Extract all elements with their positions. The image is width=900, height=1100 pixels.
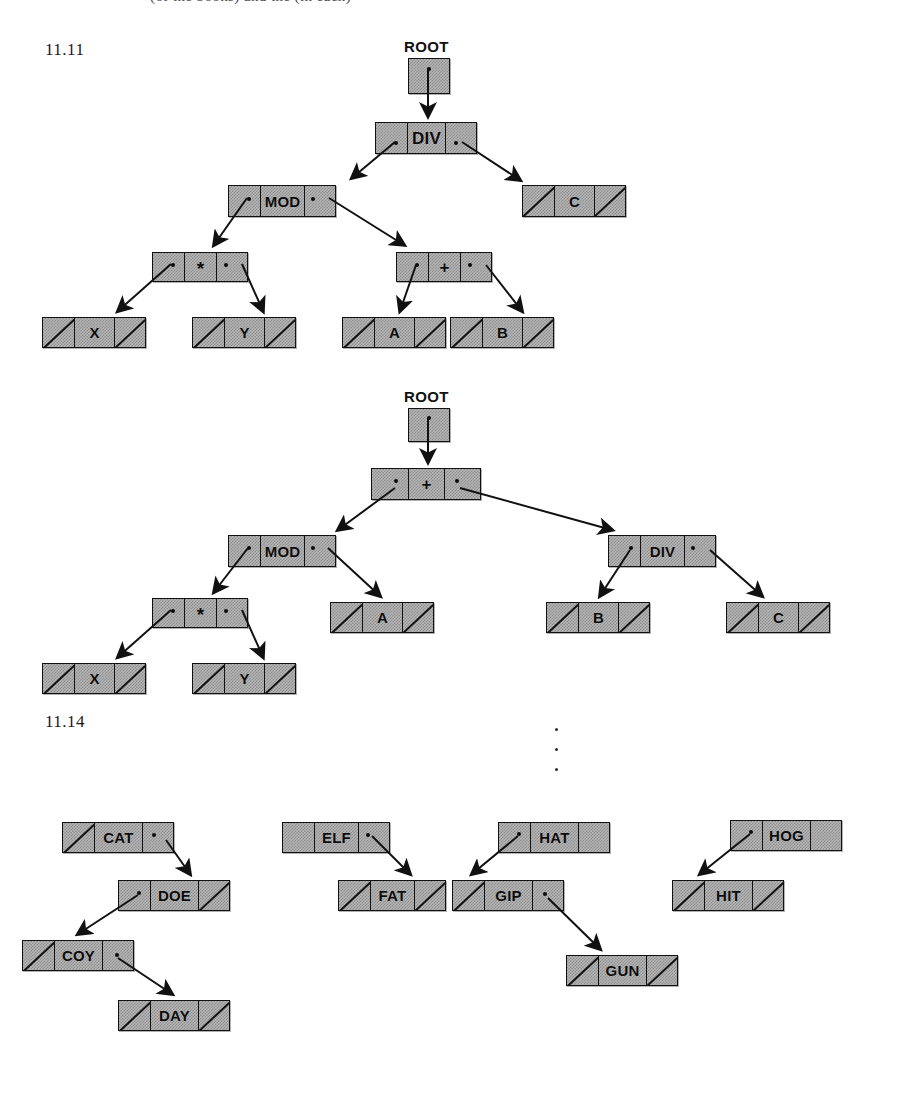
node-value: DAY — [150, 1001, 198, 1030]
vertical-ellipsis — [555, 728, 558, 788]
node-left-null — [547, 603, 578, 632]
node-c-tree2[interactable]: C — [726, 602, 830, 633]
node-value: GUN — [598, 956, 646, 985]
node-left-null — [23, 941, 54, 970]
node-doe[interactable]: DOE — [118, 880, 230, 911]
root-label-tree1: ROOT — [404, 38, 449, 55]
node-value: CAT — [94, 823, 142, 852]
node-left-pointer — [229, 186, 260, 216]
node-value: B — [578, 603, 618, 632]
node-value: X — [74, 664, 114, 693]
node-right-null — [522, 318, 553, 347]
node-right-null — [752, 881, 783, 910]
root-anchor-tree2 — [408, 408, 450, 442]
node-left-pointer — [731, 821, 762, 850]
node-left-pointer — [153, 599, 184, 627]
node-right-null — [798, 603, 829, 632]
node-left-pointer — [397, 253, 428, 281]
node-right-pointer — [102, 941, 133, 970]
node-c-tree1[interactable]: C — [522, 185, 626, 217]
node-left-null — [451, 318, 482, 347]
arrow-plus-div-t2 — [460, 488, 612, 530]
node-div-tree1[interactable]: DIV — [375, 122, 477, 154]
figure-page: (of the books) and the (in each) 11.11 1… — [0, 0, 900, 1100]
root-anchor-tree1 — [408, 58, 450, 94]
node-value: Y — [224, 664, 264, 693]
node-y-tree2[interactable]: Y — [192, 663, 296, 694]
node-value: HOG — [762, 821, 810, 850]
node-fat[interactable]: FAT — [338, 880, 446, 911]
node-hat[interactable]: HAT — [498, 822, 610, 853]
node-left-null — [119, 1001, 150, 1030]
node-right-pointer — [684, 536, 715, 566]
node-right-empty — [810, 821, 841, 850]
node-value: DIV — [640, 536, 684, 566]
root-label-tree2: ROOT — [404, 388, 449, 405]
node-hit[interactable]: HIT — [672, 880, 784, 911]
node-elf[interactable]: ELF — [282, 822, 390, 853]
node-right-pointer — [216, 253, 247, 281]
node-right-null — [414, 881, 445, 910]
node-left-pointer — [119, 881, 150, 910]
node-gip[interactable]: GIP — [452, 880, 564, 911]
node-left-null — [343, 318, 374, 347]
node-left-null — [331, 603, 362, 632]
node-right-null — [646, 956, 677, 985]
node-mod-tree1[interactable]: MOD — [228, 185, 336, 217]
node-value: B — [482, 318, 522, 347]
node-value: A — [362, 603, 402, 632]
arrow-div-c-t2 — [710, 550, 762, 596]
node-hog[interactable]: HOG — [730, 820, 842, 851]
node-gun[interactable]: GUN — [566, 955, 678, 986]
node-mod-tree2[interactable]: MOD — [228, 535, 336, 567]
node-plus-tree1[interactable]: + — [396, 252, 492, 282]
node-value: C — [554, 186, 594, 216]
node-left-pointer — [229, 536, 260, 566]
node-plus-tree2[interactable]: + — [371, 468, 481, 500]
node-x-tree1[interactable]: X — [42, 317, 146, 348]
node-right-pointer — [304, 186, 335, 216]
node-right-pointer — [304, 536, 335, 566]
node-x-tree2[interactable]: X — [42, 663, 146, 694]
node-day[interactable]: DAY — [118, 1000, 230, 1031]
node-b-tree2[interactable]: B — [546, 602, 650, 633]
node-value: Y — [224, 318, 264, 347]
arrow-mod-plus — [329, 198, 404, 245]
node-left-null — [727, 603, 758, 632]
node-value: + — [428, 253, 460, 281]
node-y-tree1[interactable]: Y — [192, 317, 296, 348]
node-right-null — [414, 318, 445, 347]
node-left-null — [339, 881, 370, 910]
node-right-null — [618, 603, 649, 632]
node-right-null — [198, 1001, 229, 1030]
exercise-label-11-14: 11.14 — [45, 712, 85, 732]
node-left-null — [673, 881, 704, 910]
node-value: FAT — [370, 881, 414, 910]
node-b-tree1[interactable]: B — [450, 317, 554, 348]
node-coy[interactable]: COY — [22, 940, 134, 971]
node-left-pointer — [153, 253, 184, 281]
node-left-null — [567, 956, 598, 985]
node-value: COY — [54, 941, 102, 970]
node-left-null — [193, 664, 224, 693]
node-right-null — [114, 318, 145, 347]
node-left-null — [43, 664, 74, 693]
node-div-tree2[interactable]: DIV — [608, 535, 716, 567]
node-cat[interactable]: CAT — [62, 822, 174, 853]
node-right-pointer — [142, 823, 173, 852]
node-value: DOE — [150, 881, 198, 910]
node-mul-tree2[interactable]: * — [152, 598, 248, 628]
node-right-pointer — [358, 823, 389, 852]
cut-header-text: (of the books) and the (in each) — [150, 0, 890, 5]
node-a-tree2[interactable]: A — [330, 602, 434, 633]
node-a-tree1[interactable]: A — [342, 317, 446, 348]
pointer-arrows-layer — [0, 0, 900, 1100]
node-value: ELF — [314, 823, 358, 852]
node-value: DIV — [407, 123, 445, 153]
node-mul-tree1[interactable]: * — [152, 252, 248, 282]
node-right-empty — [578, 823, 609, 852]
node-right-null — [402, 603, 433, 632]
node-left-null — [523, 186, 554, 216]
exercise-label-11-11: 11.11 — [45, 40, 85, 60]
node-value: + — [408, 469, 444, 499]
